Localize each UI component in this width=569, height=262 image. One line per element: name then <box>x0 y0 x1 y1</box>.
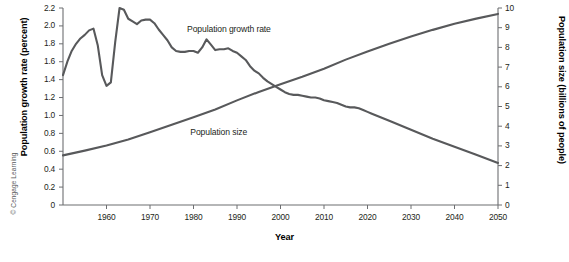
x-axis-ticks <box>107 205 499 209</box>
y-right-tick-1: 1 <box>505 180 525 190</box>
series-annotation-population-growth-rate: Population growth rate <box>187 24 271 34</box>
y-right-tick-10: 10 <box>505 3 525 13</box>
y-right-tick-3: 3 <box>505 140 525 150</box>
x-tick-1980: 1980 <box>174 212 214 222</box>
y-right-tick-2: 2 <box>505 160 525 170</box>
x-tick-1970: 1970 <box>130 212 170 222</box>
y-left-tick-0.4: 0.4 <box>29 164 55 174</box>
population-chart: © Cengage Learning Population growth rat… <box>0 0 569 262</box>
y-right-tick-5: 5 <box>505 101 525 111</box>
y-left-tick-0.6: 0.6 <box>29 146 55 156</box>
y-left-tick-1.8: 1.8 <box>29 38 55 48</box>
x-tick-2020: 2020 <box>348 212 388 222</box>
y-axis-right-ticks <box>498 8 502 205</box>
y-right-tick-6: 6 <box>505 81 525 91</box>
y-axis-left-ticks <box>59 8 63 205</box>
x-tick-2040: 2040 <box>435 212 475 222</box>
plot-area <box>0 0 569 262</box>
y-left-tick-0: 0 <box>29 200 55 210</box>
x-tick-2050: 2050 <box>478 212 518 222</box>
y-right-tick-0: 0 <box>505 200 525 210</box>
x-tick-2000: 2000 <box>261 212 301 222</box>
y-left-tick-1.4: 1.4 <box>29 74 55 84</box>
y-left-tick-1.6: 1.6 <box>29 56 55 66</box>
y-left-tick-2.2: 2.2 <box>29 3 55 13</box>
y-left-tick-1.2: 1.2 <box>29 92 55 102</box>
series-line-population-size <box>63 14 498 155</box>
x-tick-2030: 2030 <box>391 212 431 222</box>
series-annotation-population-size: Population size <box>190 127 247 137</box>
y-right-tick-7: 7 <box>505 62 525 72</box>
x-tick-1960: 1960 <box>87 212 127 222</box>
x-tick-2010: 2010 <box>304 212 344 222</box>
axis-lines <box>63 8 498 205</box>
y-left-tick-0.2: 0.2 <box>29 182 55 192</box>
y-right-tick-8: 8 <box>505 42 525 52</box>
y-right-tick-4: 4 <box>505 121 525 131</box>
y-left-tick-0.8: 0.8 <box>29 128 55 138</box>
y-left-tick-1.0: 1.0 <box>29 110 55 120</box>
x-tick-1990: 1990 <box>217 212 257 222</box>
y-right-tick-9: 9 <box>505 22 525 32</box>
y-left-tick-2.0: 2.0 <box>29 20 55 30</box>
